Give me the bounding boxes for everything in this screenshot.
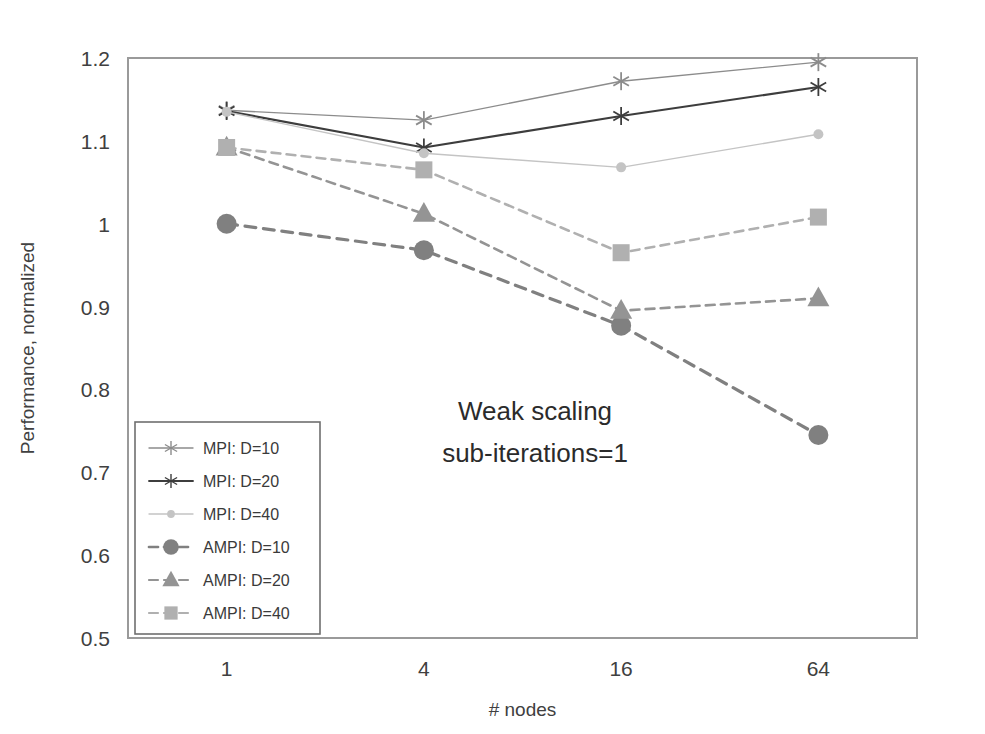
star-ray [818, 62, 826, 67]
star-ray [416, 120, 424, 125]
star-ray [621, 116, 629, 121]
data-point-dot [616, 162, 626, 172]
series-mpi-d-40 [222, 107, 824, 173]
data-point-triangle [610, 299, 632, 319]
data-point-dot [813, 129, 823, 139]
x-axis-tick-label: 64 [807, 657, 831, 680]
star-ray [811, 83, 819, 88]
legend-label: AMPI: D=40 [203, 605, 290, 622]
y-axis-tick-label: 1 [98, 213, 110, 236]
series-mpi-d-20 [219, 78, 826, 156]
data-point-circle [163, 539, 179, 555]
y-axis-tick-label: 0.9 [81, 296, 110, 319]
star-ray [613, 77, 621, 82]
y-axis-tick-label: 1.1 [81, 130, 110, 153]
data-point-circle [414, 240, 434, 260]
data-point-circle [808, 425, 828, 445]
y-axis-tick-label: 1.2 [81, 47, 110, 70]
data-point-circle [217, 214, 237, 234]
data-point-square [810, 209, 827, 226]
data-point-dot [222, 107, 232, 117]
legend-label: AMPI: D=20 [203, 572, 290, 589]
y-axis-tick-label: 0.7 [81, 461, 110, 484]
x-axis-tick-label: 1 [221, 657, 233, 680]
y-axis-title: Performance, normalized [17, 242, 38, 454]
data-point-triangle [807, 287, 829, 307]
legend-label: MPI: D=40 [203, 506, 279, 523]
legend-item[interactable]: AMPI: D=40 [149, 605, 290, 622]
star-ray [621, 81, 629, 86]
legend-item[interactable]: AMPI: D=10 [149, 539, 290, 556]
chart-container: 0.50.60.70.80.911.11.2Performance, norma… [0, 0, 985, 734]
series-line [227, 87, 819, 147]
y-axis-tick-label: 0.5 [81, 627, 110, 650]
star-ray [818, 87, 826, 92]
series-mpi-d-10 [219, 53, 826, 129]
data-point-square [613, 244, 630, 261]
star-ray [818, 83, 826, 88]
data-point-dot [167, 510, 175, 518]
series-line [227, 62, 819, 120]
x-axis-title: # nodes [489, 699, 557, 720]
legend-label: AMPI: D=10 [203, 539, 290, 556]
chart-annotation-line: Weak scaling [458, 396, 612, 426]
star-ray [613, 112, 621, 117]
data-point-square [415, 161, 432, 178]
y-axis-tick-label: 0.8 [81, 378, 110, 401]
chart-annotation-line: sub-iterations=1 [442, 438, 628, 468]
x-axis-tick-label: 16 [609, 657, 632, 680]
data-point-square [218, 139, 235, 156]
legend-label: MPI: D=10 [203, 440, 279, 457]
data-point-dot [419, 148, 429, 158]
performance-line-chart: 0.50.60.70.80.911.11.2Performance, norma… [0, 0, 985, 734]
y-axis-tick-label: 0.6 [81, 544, 110, 567]
series-line [227, 147, 819, 252]
legend-label: MPI: D=20 [203, 473, 279, 490]
star-ray [424, 120, 432, 125]
data-point-square [164, 606, 177, 619]
chart-legend: MPI: D=10MPI: D=20MPI: D=40AMPI: D=10AMP… [135, 422, 320, 634]
series-ampi-d-40 [218, 139, 827, 261]
x-axis-tick-label: 4 [418, 657, 430, 680]
series-ampi-d-20 [216, 136, 830, 319]
series-line [227, 112, 819, 168]
